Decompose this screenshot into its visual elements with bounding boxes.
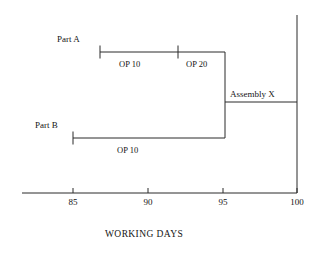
part-a-op-20-label: OP 20 [186,59,207,69]
x-tick-label-85: 85 [63,197,83,207]
part-a-label: Part A [57,34,80,44]
x-axis-title: WORKING DAYS [105,229,183,239]
gantt-chart: Part A Part B OP 10 OP 20 OP 10 Assembly… [0,0,315,259]
part-b-op-10-label: OP 10 [117,145,138,155]
assembly-x-label: Assembly X [230,89,275,99]
x-tick-label-95: 95 [213,197,233,207]
part-a-op-10-label: OP 10 [119,59,140,69]
x-tick-label-100: 100 [285,197,309,207]
x-tick-label-90: 90 [138,197,158,207]
part-b-label: Part B [35,120,58,130]
